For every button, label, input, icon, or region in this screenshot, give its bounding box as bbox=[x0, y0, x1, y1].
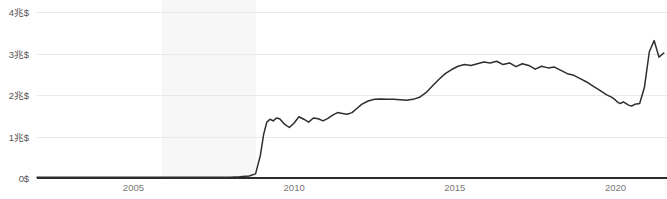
y-tick-label: 2兆$ bbox=[0, 88, 29, 102]
x-tick-label: 2005 bbox=[123, 182, 144, 193]
x-tick-label: 2015 bbox=[444, 182, 465, 193]
series-line-total bbox=[37, 41, 664, 178]
chart-container: 0$1兆$2兆$3兆$4兆$ 2005201020152020 bbox=[0, 0, 667, 199]
y-tick-label: 0$ bbox=[0, 173, 29, 184]
series-layer bbox=[37, 0, 667, 178]
y-tick-label: 1兆$ bbox=[0, 130, 29, 144]
plot-area bbox=[37, 0, 667, 178]
y-tick-label: 4兆$ bbox=[0, 5, 29, 19]
y-tick-label: 3兆$ bbox=[0, 47, 29, 61]
x-tick-label: 2010 bbox=[284, 182, 305, 193]
x-tick-label: 2020 bbox=[605, 182, 626, 193]
